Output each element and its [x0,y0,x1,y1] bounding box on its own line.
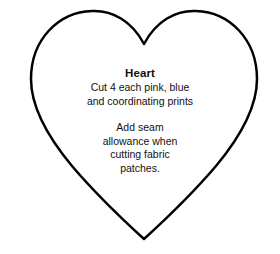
heart-outline-svg [0,0,280,254]
pattern-template-canvas: Heart Cut 4 each pink, blue and coordina… [0,0,280,254]
heart-shape-path [31,11,257,239]
